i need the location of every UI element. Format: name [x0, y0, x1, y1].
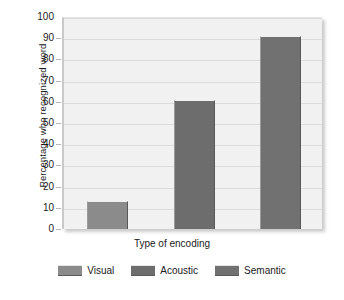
- legend-label-semantic: Semantic: [244, 265, 286, 276]
- y-tick-label-0: 0: [14, 224, 54, 234]
- bar-chart: Percentage who recognized word 100908070…: [0, 0, 344, 300]
- legend-swatch-icon-visual: [58, 265, 82, 276]
- y-tick-label-40: 40: [14, 139, 54, 149]
- y-tick-mark-40: [56, 144, 61, 145]
- y-tick-mark-0: [56, 229, 61, 230]
- gridline-100: [64, 18, 322, 19]
- y-tick-mark-60: [56, 102, 61, 103]
- y-tick-label-70: 70: [14, 76, 54, 86]
- y-tick-label-10: 10: [14, 203, 54, 213]
- bar-visual: [87, 201, 128, 229]
- bar-semantic: [260, 36, 301, 229]
- plot-area: [62, 17, 322, 229]
- x-axis-title: Type of encoding: [0, 238, 344, 249]
- y-tick-label-30: 30: [14, 160, 54, 170]
- y-tick-label-90: 90: [14, 33, 54, 43]
- legend-label-acoustic: Acoustic: [160, 265, 198, 276]
- y-tick-mark-10: [56, 208, 61, 209]
- y-tick-label-50: 50: [14, 118, 54, 128]
- y-tick-mark-80: [56, 59, 61, 60]
- bar-acoustic: [174, 100, 215, 229]
- y-tick-label-60: 60: [14, 97, 54, 107]
- plot-area-wrapper: [62, 17, 322, 229]
- legend-item-acoustic[interactable]: Acoustic: [131, 265, 198, 276]
- y-tick-label-80: 80: [14, 54, 54, 64]
- legend-label-visual: Visual: [87, 265, 114, 276]
- y-tick-label-20: 20: [14, 182, 54, 192]
- legend-swatch-icon-semantic: [215, 265, 239, 276]
- y-tick-mark-30: [56, 165, 61, 166]
- y-tick-mark-90: [56, 38, 61, 39]
- y-tick-mark-50: [56, 123, 61, 124]
- legend-item-visual[interactable]: Visual: [58, 265, 114, 276]
- chart-legend: VisualAcousticSemantic: [0, 265, 344, 276]
- y-tick-label-100: 100: [14, 12, 54, 22]
- legend-swatch-icon-acoustic: [131, 265, 155, 276]
- y-tick-mark-70: [56, 81, 61, 82]
- y-tick-mark-20: [56, 187, 61, 188]
- legend-item-semantic[interactable]: Semantic: [215, 265, 286, 276]
